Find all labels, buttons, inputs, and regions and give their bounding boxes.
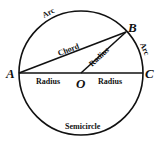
point-o-label: O bbox=[76, 76, 86, 91]
radius-ao-label: Radius bbox=[36, 77, 60, 86]
circle-diagram: A B C O Arc Arc Chord Radius Radius Radi… bbox=[0, 0, 159, 148]
point-b-label: B bbox=[127, 20, 137, 35]
point-c-label: C bbox=[145, 66, 154, 81]
radius-ob-label: Radius bbox=[87, 46, 111, 69]
point-a-label: A bbox=[5, 66, 15, 81]
chord-label: Chord bbox=[56, 41, 80, 58]
radius-oc-label: Radius bbox=[98, 77, 122, 86]
semicircle-label: Semicircle bbox=[65, 122, 101, 131]
